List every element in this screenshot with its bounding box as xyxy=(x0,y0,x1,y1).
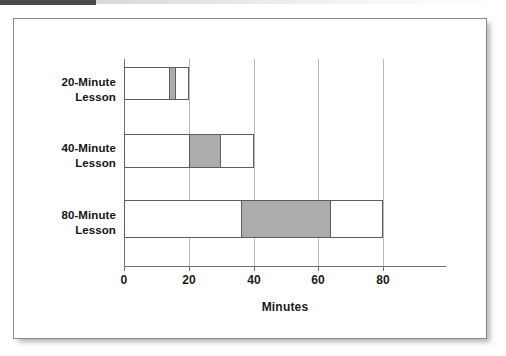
category-label-line-2: Lesson xyxy=(6,156,116,171)
x-tick-20 xyxy=(189,266,190,271)
x-axis-line xyxy=(124,266,446,267)
x-tick-label-0: 0 xyxy=(104,273,144,287)
scan-edge-artifact-fade xyxy=(96,0,506,4)
x-tick-label-80: 80 xyxy=(363,273,403,287)
figure-panel: 0 20 40 60 80 Minutes 20-Minute Lesson 4… xyxy=(13,18,487,339)
bar-80-minute-lesson[interactable] xyxy=(124,200,383,238)
bar-segment-highlight xyxy=(169,68,175,99)
category-label-line-2: Lesson xyxy=(6,90,116,105)
plot-area: 0 20 40 60 80 Minutes 20-Minute Lesson 4… xyxy=(14,19,488,340)
category-label-20-minute-lesson: 20-Minute Lesson xyxy=(6,75,116,105)
bar-segment-highlight xyxy=(189,135,221,167)
x-tick-40 xyxy=(254,266,255,271)
bar-40-minute-lesson[interactable] xyxy=(124,134,254,168)
x-tick-60 xyxy=(318,266,319,271)
category-label-line-1: 80-Minute xyxy=(6,208,116,223)
x-tick-label-20: 20 xyxy=(169,273,209,287)
category-label-line-1: 40-Minute xyxy=(6,141,116,156)
bar-segment-highlight xyxy=(241,201,332,237)
x-tick-0 xyxy=(124,266,125,271)
x-tick-label-60: 60 xyxy=(298,273,338,287)
category-label-line-2: Lesson xyxy=(6,223,116,238)
category-label-80-minute-lesson: 80-Minute Lesson xyxy=(6,208,116,238)
bar-20-minute-lesson[interactable] xyxy=(124,67,189,100)
x-tick-80 xyxy=(383,266,384,271)
x-tick-label-40: 40 xyxy=(234,273,274,287)
scan-edge-artifact xyxy=(0,0,96,5)
category-label-40-minute-lesson: 40-Minute Lesson xyxy=(6,141,116,171)
category-label-line-1: 20-Minute xyxy=(6,75,116,90)
x-axis-title: Minutes xyxy=(124,300,446,314)
gridline-80 xyxy=(383,59,384,266)
